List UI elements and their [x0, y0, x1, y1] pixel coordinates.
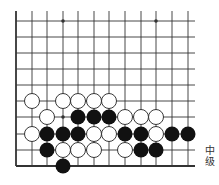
star-point-icon [154, 19, 158, 23]
white-stone[interactable] [56, 94, 71, 109]
black-stone[interactable] [71, 127, 86, 142]
white-stone[interactable] [149, 127, 164, 142]
white-stone[interactable] [71, 143, 86, 158]
black-stone[interactable] [165, 127, 180, 142]
black-stone[interactable] [56, 127, 71, 142]
white-stone[interactable] [87, 143, 102, 158]
black-stone[interactable] [40, 127, 55, 142]
black-stone[interactable] [134, 127, 149, 142]
black-stone[interactable] [149, 143, 164, 158]
black-stone[interactable] [134, 143, 149, 158]
black-stone[interactable] [71, 110, 86, 125]
black-stone[interactable] [87, 110, 102, 125]
white-stone[interactable] [40, 110, 55, 125]
white-stone[interactable] [56, 143, 71, 158]
white-stone[interactable] [25, 127, 40, 142]
white-stone[interactable] [102, 94, 117, 109]
board-grid [16, 11, 195, 166]
difficulty-level-label: 中级 [204, 145, 216, 167]
black-stone[interactable] [102, 110, 117, 125]
black-stone[interactable] [118, 127, 133, 142]
white-stone[interactable] [118, 110, 133, 125]
go-board [0, 0, 219, 185]
white-stone[interactable] [102, 127, 117, 142]
white-stone[interactable] [134, 110, 149, 125]
white-stone[interactable] [25, 94, 40, 109]
white-stone[interactable] [87, 127, 102, 142]
white-stone[interactable] [71, 94, 86, 109]
star-point-icon [61, 19, 65, 23]
white-stone[interactable] [87, 94, 102, 109]
white-stone[interactable] [149, 110, 164, 125]
stones-layer [25, 94, 196, 174]
white-stone[interactable] [118, 143, 133, 158]
black-stone[interactable] [181, 127, 196, 142]
black-stone[interactable] [40, 143, 55, 158]
star-point-icon [61, 115, 65, 119]
black-stone[interactable] [56, 159, 71, 174]
